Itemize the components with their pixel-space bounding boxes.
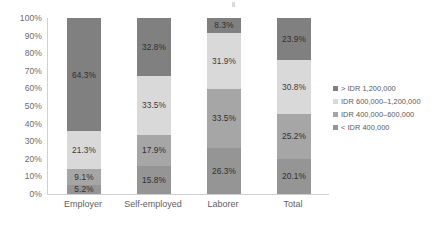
bar-segment[interactable]: 5.2% [67,185,101,194]
bar-segment-label: 15.8% [142,176,166,184]
legend-item-label: < IDR 400,000 [341,123,390,132]
bar-segment[interactable]: 17.9% [137,135,171,167]
y-axis-tick-label: 20% [25,154,42,164]
stacked-bar[interactable]: 15.8%17.9%33.5%32.8% [137,18,171,194]
y-axis-tick-label: 40% [25,119,42,129]
legend-item[interactable]: IDR 600,000–1,200,000 [333,95,437,108]
y-axis: 0%10%20%30%40%50%60%70%80%90%100% [8,18,46,194]
bar-segment[interactable]: 31.9% [207,33,241,89]
bar-segment[interactable]: 30.8% [277,60,311,114]
x-axis-tick-label: Self-employed [118,199,188,209]
bar-segment-label: 26.3% [212,167,236,175]
legend-swatch-icon [333,125,338,130]
legend-swatch-icon [333,99,338,104]
bar-segment-label: 33.5% [142,101,166,109]
stacked-bar[interactable]: 5.2%9.1%21.3%64.3% [67,18,101,194]
x-axis: EmployerSelf-employedLaborerTotal [48,199,329,219]
bar-segment-label: 20.1% [282,172,306,180]
legend-item[interactable]: < IDR 400,000 [333,121,437,134]
bar-segment[interactable]: 64.3% [67,18,101,131]
bar-segment-label: 17.9% [142,146,166,154]
stacked-bar[interactable]: 26.3%33.5%31.9%8.3% [207,18,241,194]
bar-group: 26.3%33.5%31.9%8.3% [188,18,258,194]
bar-segment-label: 31.9% [212,57,236,65]
y-axis-tick-label: 10% [25,171,42,181]
bar-segment[interactable]: 21.3% [67,131,101,168]
bar-segment[interactable]: 33.5% [137,76,171,135]
legend-item-label: IDR 600,000–1,200,000 [341,97,421,106]
legend-swatch-icon [333,86,338,91]
stacked-bar-chart: 0%10%20%30%40%50%60%70%80%90%100% 5.2%9.… [0,0,441,236]
bar-segment-label: 64.3% [72,71,96,79]
bar-segment-label: 23.9% [282,35,306,43]
bar-segment[interactable]: 20.1% [277,159,311,194]
bar-segment-label: 8.3% [214,21,233,29]
bar-segment-label: 33.5% [212,114,236,122]
y-axis-tick-label: 70% [25,66,42,76]
chart-legend: > IDR 1,200,000IDR 600,000–1,200,000IDR … [333,82,437,134]
bar-segment-label: 5.2% [74,185,93,193]
legend-swatch-icon [333,112,338,117]
bar-segment-label: 21.3% [72,146,96,154]
legend-item-label: > IDR 1,200,000 [341,84,396,93]
y-axis-tick-label: 0% [30,189,43,199]
bar-segment-label: 30.8% [282,83,306,91]
legend-item[interactable]: IDR 400,000–600,000 [333,108,437,121]
bar-segment[interactable]: 9.1% [67,169,101,185]
x-axis-tick-label: Laborer [188,199,258,209]
bar-segment[interactable]: 26.3% [207,148,241,194]
y-axis-tick-label: 30% [25,136,42,146]
bar-segment-label: 32.8% [142,43,166,51]
bar-group: 5.2%9.1%21.3%64.3% [48,18,118,194]
bar-segment[interactable]: 33.5% [207,89,241,148]
bar-group: 20.1%25.2%30.8%23.9% [258,18,328,194]
bar-segment[interactable]: 8.3% [207,18,241,33]
y-axis-tick-label: 100% [20,13,42,23]
bar-segment-label: 25.2% [282,132,306,140]
x-axis-tick-label: Employer [48,199,118,209]
x-axis-tick-label: Total [258,199,328,209]
bar-group: 15.8%17.9%33.5%32.8% [118,18,188,194]
y-axis-tick-label: 80% [25,48,42,58]
legend-item-label: IDR 400,000–600,000 [341,110,414,119]
bar-segment-label: 9.1% [74,173,93,181]
y-axis-tick-label: 50% [25,101,42,111]
bar-segment[interactable]: 32.8% [137,18,171,76]
y-axis-tick-label: 90% [25,31,42,41]
top-artifact [232,2,235,7]
bar-segment[interactable]: 23.9% [277,18,311,60]
plot-area: 5.2%9.1%21.3%64.3%15.8%17.9%33.5%32.8%26… [48,18,329,194]
y-axis-tick-label: 60% [25,83,42,93]
stacked-bar[interactable]: 20.1%25.2%30.8%23.9% [277,18,311,194]
bar-segment[interactable]: 15.8% [137,166,171,194]
bar-segment[interactable]: 25.2% [277,114,311,158]
x-axis-line [47,194,329,195]
legend-item[interactable]: > IDR 1,200,000 [333,82,437,95]
